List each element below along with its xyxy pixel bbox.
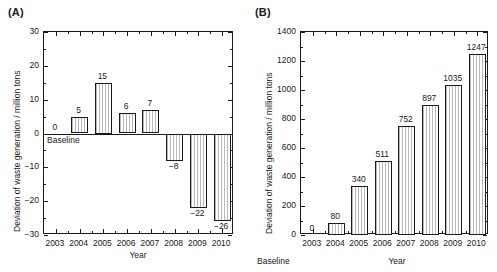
bar-value-label: −26: [214, 221, 228, 231]
x-tick-minor: [115, 231, 116, 233]
x-tick: [80, 32, 81, 36]
x-tick: [336, 32, 337, 36]
y-tick: [301, 76, 303, 77]
x-tick: [313, 32, 314, 36]
x-tick-label: 2003: [45, 238, 64, 248]
x-tick-minor: [187, 32, 188, 34]
y-tick-label: 10: [9, 94, 39, 104]
bar-value-label: 897: [422, 93, 436, 103]
x-tick-minor: [442, 231, 443, 233]
x-tick: [198, 229, 199, 233]
y-tick: [301, 206, 305, 207]
y-tick-label: 0: [266, 229, 296, 239]
y-tick: [483, 32, 487, 33]
y-tick: [301, 47, 303, 48]
baseline-annotation-a: Baseline: [47, 135, 80, 145]
y-tick: [301, 163, 303, 164]
y-tick-label: 0: [9, 128, 39, 138]
y-tick: [228, 66, 232, 67]
x-tick-minor: [348, 231, 349, 233]
y-tick: [301, 134, 303, 135]
x-axis-title-a: Year: [129, 250, 146, 260]
y-tick: [44, 66, 48, 67]
bar-value-label: 0: [53, 122, 58, 132]
x-tick: [360, 32, 361, 36]
bar: [214, 134, 231, 222]
bar: [422, 105, 439, 235]
y-tick-label: 1000: [266, 84, 296, 94]
x-tick-minor: [466, 231, 467, 233]
x-tick: [103, 229, 104, 233]
x-tick-minor: [139, 32, 140, 34]
y-tick-label: 600: [266, 142, 296, 152]
bar: [445, 85, 462, 235]
x-tick-minor: [395, 32, 396, 34]
x-tick: [56, 229, 57, 233]
x-tick-label: 2005: [93, 238, 112, 248]
x-tick: [127, 32, 128, 36]
x-tick: [56, 32, 57, 36]
bar-value-label: 80: [331, 211, 340, 221]
bar: [71, 117, 88, 134]
y-tick-label: −30: [9, 229, 39, 239]
x-tick-minor: [372, 32, 373, 34]
y-tick: [301, 61, 305, 62]
y-tick-label: 1200: [266, 55, 296, 65]
y-tick-label: 400: [266, 171, 296, 181]
bar-value-label: 15: [98, 71, 107, 81]
x-tick: [127, 229, 128, 233]
baseline-note-b: Baseline: [257, 256, 290, 266]
x-tick-label: 2008: [164, 238, 183, 248]
x-tick-label: 2007: [396, 238, 415, 248]
y-tick: [301, 177, 305, 178]
x-tick: [430, 32, 431, 36]
x-tick: [175, 229, 176, 233]
x-tick: [151, 229, 152, 233]
x-tick-minor: [325, 32, 326, 34]
x-tick-label: 2009: [443, 238, 462, 248]
x-tick-minor: [187, 231, 188, 233]
y-tick: [301, 221, 303, 222]
y-tick: [301, 90, 305, 91]
x-tick: [80, 229, 81, 233]
bar-value-label: 0: [309, 223, 314, 233]
x-tick-minor: [210, 231, 211, 233]
bar: [142, 110, 159, 134]
y-tick-label: −10: [9, 161, 39, 171]
y-tick: [230, 49, 232, 50]
panel-b: (B) Year Deviation of waste generation /…: [247, 0, 497, 272]
bar-value-label: 511: [375, 149, 389, 159]
x-tick-minor: [163, 32, 164, 34]
x-tick-minor: [115, 32, 116, 34]
y-tick-label: 30: [9, 26, 39, 36]
bar-value-label: −22: [190, 208, 204, 218]
y-tick: [44, 100, 48, 101]
plot-area-b: [300, 31, 488, 234]
x-axis-title-b: Year: [388, 256, 405, 266]
y-tick: [301, 105, 303, 106]
y-tick: [301, 32, 305, 33]
x-tick-label: 2007: [140, 238, 159, 248]
y-tick: [44, 83, 46, 84]
y-tick: [301, 148, 305, 149]
x-tick-label: 2005: [349, 238, 368, 248]
y-tick: [44, 235, 48, 236]
x-tick: [103, 32, 104, 36]
y-tick: [44, 117, 46, 118]
x-tick-minor: [139, 231, 140, 233]
x-tick-minor: [466, 32, 467, 34]
x-tick-label: 2006: [117, 238, 136, 248]
x-tick: [198, 32, 199, 36]
y-tick-label: −20: [9, 195, 39, 205]
y-tick: [44, 184, 46, 185]
bar-value-label: −8: [169, 161, 179, 171]
y-tick: [228, 235, 232, 236]
x-tick-label: 2009: [188, 238, 207, 248]
bar: [119, 113, 136, 133]
bar: [375, 161, 392, 235]
x-tick-label: 2003: [302, 238, 321, 248]
y-tick: [44, 32, 48, 33]
x-tick: [407, 32, 408, 36]
y-tick: [44, 150, 46, 151]
x-tick-label: 2010: [467, 238, 486, 248]
